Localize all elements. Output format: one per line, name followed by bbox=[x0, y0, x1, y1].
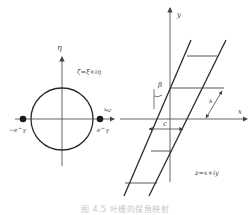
c-label: c bbox=[163, 120, 167, 128]
beta-arc bbox=[154, 95, 162, 97]
point-right-label: e^γ bbox=[97, 126, 110, 134]
eta-label: η bbox=[57, 43, 62, 52]
zeta-plane-label: ζ=ξ+iη bbox=[77, 68, 101, 76]
xi-label: ξ bbox=[104, 107, 112, 112]
z-plane bbox=[120, 8, 247, 196]
beta-label: β bbox=[157, 81, 162, 89]
s-label: s bbox=[209, 97, 213, 105]
singular-point-right bbox=[97, 116, 104, 123]
singular-point-left bbox=[20, 116, 27, 123]
y-label: y bbox=[176, 11, 182, 19]
z-plane-label: z=x+iy bbox=[194, 169, 219, 177]
x-label: x bbox=[238, 108, 242, 116]
conformal-map-diagram: η ζ=ξ+iη ξ −e^γ e^γ y x β c s z=x+iy bbox=[0, 0, 250, 215]
cascade-line-left bbox=[124, 40, 191, 196]
point-left-label: −e^γ bbox=[9, 126, 27, 134]
figure-caption: 图 4.5 叶栅的保角映射 bbox=[0, 203, 250, 214]
